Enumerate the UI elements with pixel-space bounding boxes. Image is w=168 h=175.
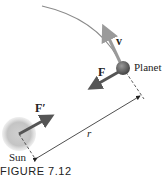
sun-label: Sun xyxy=(9,151,26,163)
force-sun-label: F′ xyxy=(35,101,46,116)
figure-caption: FIGURE 7.12 xyxy=(0,165,72,175)
diagram-canvas xyxy=(0,0,168,175)
distance-label: r xyxy=(87,127,91,139)
force-planet-label: F xyxy=(98,65,105,80)
planet-label: Planet xyxy=(134,61,162,73)
planet xyxy=(116,61,130,75)
velocity-label: v xyxy=(116,34,122,49)
